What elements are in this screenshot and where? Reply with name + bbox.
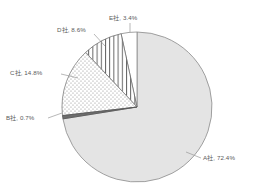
pie-label-c: C社, 14.8% bbox=[10, 70, 42, 76]
pie-label-a: A社, 72.4% bbox=[203, 155, 235, 161]
pie-chart-figure: A社, 72.4% B社, 0.7% C社, 14.8% D社, 8.6% E社… bbox=[0, 0, 255, 195]
pie-label-d: D社, 8.6% bbox=[57, 27, 86, 33]
pie-chart-svg bbox=[0, 0, 255, 195]
leader-line-b bbox=[48, 113, 62, 118]
pie-label-b: B社, 0.7% bbox=[6, 115, 34, 121]
pie-label-e: E社, 3.4% bbox=[109, 15, 137, 21]
